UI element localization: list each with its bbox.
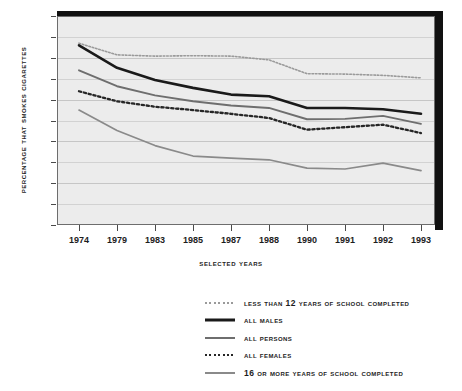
legend-item: All Persons — [205, 329, 462, 347]
x-tick-mark — [269, 225, 270, 231]
x-tick-mark — [231, 225, 232, 231]
x-tick-label: 1988 — [249, 235, 289, 245]
legend-item: All Females — [205, 347, 462, 365]
x-tick-mark — [79, 225, 80, 231]
legend-swatch-all-males — [205, 315, 235, 325]
x-tick-mark — [307, 225, 308, 231]
y-tick-mark — [51, 162, 56, 163]
x-tick-label: 1990 — [287, 235, 327, 245]
legend-item: 16 or More Years of School Completed — [205, 364, 462, 382]
y-axis-title: Percentage That Smokes Cigarettes — [18, 5, 28, 235]
y-tick-mark — [51, 37, 56, 38]
y-tick-mark — [51, 16, 56, 17]
x-tick-label: 1985 — [173, 235, 213, 245]
series-line — [79, 110, 421, 171]
x-axis-title: Selected Years — [0, 258, 462, 268]
chart-legend: Less Than 12 Years of School Completed A… — [205, 294, 462, 382]
series-line — [79, 91, 421, 133]
y-tick-mark — [51, 141, 56, 142]
legend-swatch-less-than-12-years — [205, 298, 235, 308]
x-tick-label: 1979 — [97, 235, 137, 245]
legend-swatch-16-or-more-years — [205, 368, 235, 378]
legend-swatch-all-females — [205, 350, 235, 360]
x-tick-label: 1993 — [401, 235, 441, 245]
legend-label: Less Than 12 Years of School Completed — [244, 298, 409, 308]
y-tick-mark — [51, 204, 56, 205]
y-tick-mark — [51, 183, 56, 184]
x-tick-mark — [383, 225, 384, 231]
y-tick-mark — [51, 121, 56, 122]
y-tick-mark — [51, 58, 56, 59]
chart-frame-shadow-right — [435, 11, 443, 230]
legend-item: Less Than 12 Years of School Completed — [205, 294, 462, 312]
x-tick-label: 1974 — [59, 235, 99, 245]
y-tick-mark — [51, 225, 56, 226]
x-tick-mark — [117, 225, 118, 231]
legend-label: 16 or More Years of School Completed — [244, 368, 403, 378]
x-tick-label: 1987 — [211, 235, 251, 245]
x-tick-mark — [421, 225, 422, 231]
series-lines — [57, 16, 435, 225]
x-tick-label: 1992 — [363, 235, 403, 245]
legend-swatch-all-persons — [205, 333, 235, 343]
x-tick-mark — [155, 225, 156, 231]
x-tick-mark — [193, 225, 194, 231]
x-tick-label: 1991 — [325, 235, 365, 245]
x-tick-label: 1983 — [135, 235, 175, 245]
x-tick-mark — [345, 225, 346, 231]
legend-label: All Persons — [244, 333, 292, 343]
legend-label: All Females — [244, 350, 292, 360]
y-tick-mark — [51, 79, 56, 80]
y-tick-mark — [51, 100, 56, 101]
legend-label: All Males — [244, 315, 283, 325]
legend-item: All Males — [205, 312, 462, 330]
